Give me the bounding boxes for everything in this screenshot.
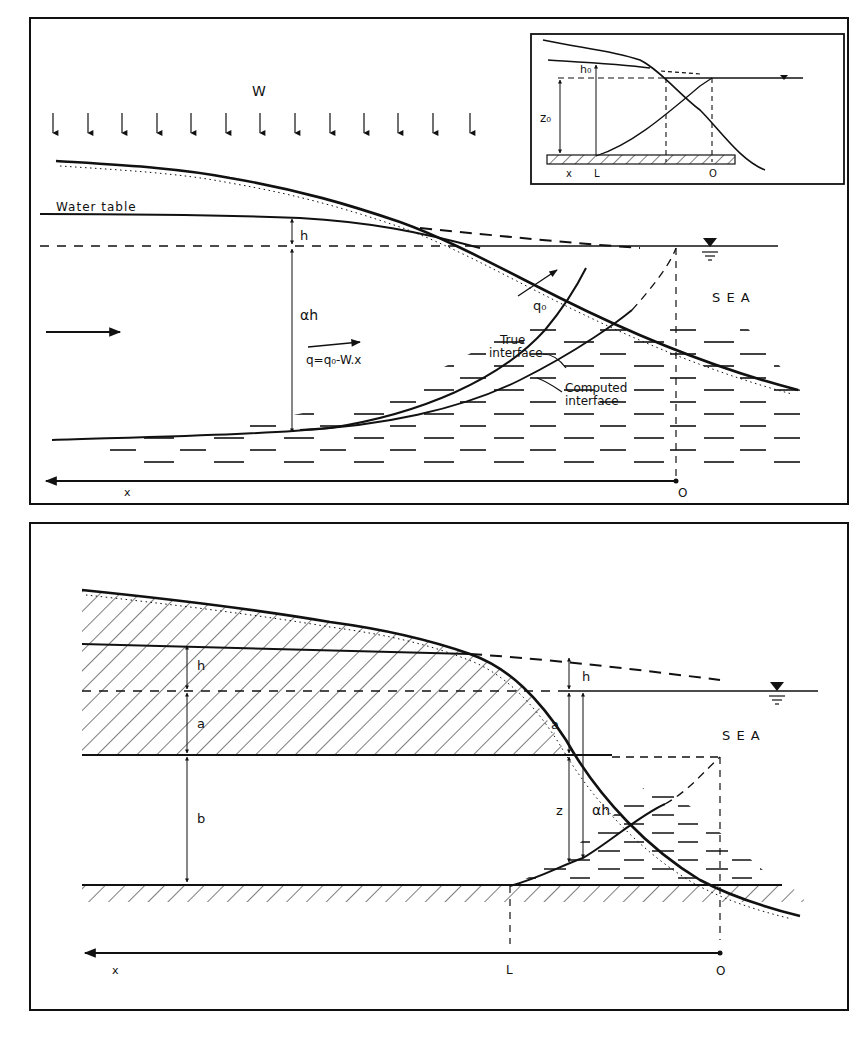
inset-origin-label: O	[709, 168, 717, 179]
computed-interface-extension	[632, 248, 676, 310]
bottom-figure-frame	[30, 523, 848, 1010]
figure-canvas: W Water table	[0, 0, 866, 1049]
inset-water-table	[548, 60, 650, 68]
h-left-label: h	[197, 658, 205, 673]
top-figure: W Water table	[30, 18, 848, 504]
inset-h0-label: h₀	[580, 63, 592, 76]
water-table-line	[40, 214, 480, 248]
sea-label: S E A	[712, 290, 751, 305]
a-right-label: a	[551, 717, 559, 732]
inset-diagram: z₀ h₀ x L O	[531, 34, 844, 184]
computed-interface-label-line1: Computed	[565, 381, 627, 395]
bottom-figure: S E A h a b h a z αh x L O	[30, 523, 848, 1010]
bottom-alpha-h-label: αh	[592, 802, 610, 818]
inset-interface	[596, 78, 712, 156]
recharge-label: W	[252, 83, 266, 99]
bottom-origin-label: O	[716, 964, 725, 978]
inset-projection	[661, 71, 700, 74]
computed-interface-label-line2: interface	[565, 394, 619, 408]
L-label: L	[506, 963, 513, 977]
bottom-origin-dot	[718, 951, 723, 956]
outflow-label: q₀	[533, 298, 546, 313]
sea-level-symbol-icon	[702, 238, 718, 260]
a-left-label: a	[197, 716, 205, 731]
origin-label: O	[678, 486, 687, 500]
recharge-arrows	[53, 113, 470, 133]
h-label: h	[300, 228, 308, 243]
upper-aquitard-hatch	[82, 590, 566, 755]
x-axis-label: x	[124, 486, 131, 499]
true-interface-label-line1: True	[499, 333, 526, 347]
z-label: z	[556, 803, 563, 818]
bottom-x-axis-label: x	[112, 964, 119, 977]
flux-label: q=q₀-W.x	[306, 353, 361, 367]
bottom-sea-level-symbol-icon	[769, 682, 785, 704]
inset-impermeable-base	[547, 155, 735, 164]
saltwater-zone	[40, 320, 810, 480]
b-label: b	[197, 811, 205, 826]
bottom-sea-label: S E A	[722, 728, 761, 743]
h-right-label: h	[582, 669, 590, 684]
flux-arrow	[308, 342, 360, 347]
alpha-h-label: αh	[300, 307, 318, 323]
origin-dot	[674, 479, 679, 484]
impermeable-base-hatch	[82, 885, 806, 902]
inset-ground-line	[543, 40, 765, 170]
inset-x-label: x	[566, 168, 572, 179]
true-interface-label-line2: interface	[489, 346, 543, 360]
water-table-label: Water table	[56, 200, 137, 214]
inset-z0-label: z₀	[540, 111, 551, 125]
inset-L-label: L	[594, 168, 600, 179]
